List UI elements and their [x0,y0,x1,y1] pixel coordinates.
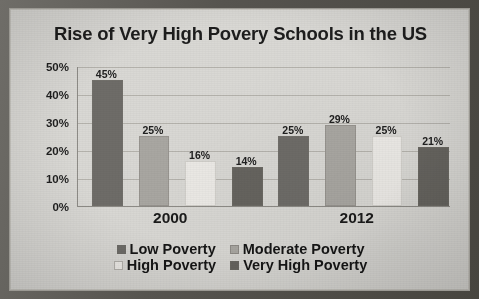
x-axis-category-label: 2012 [340,209,374,227]
y-axis-tick-label: 0% [52,201,69,213]
scanned-page: Rise of Very High Povery Schools in the … [0,0,479,299]
bar-value-label: 45% [96,68,117,80]
legend-label: High Poverty [127,257,216,273]
bar-value-label: 21% [422,135,443,147]
legend-item-low-poverty[interactable]: Low Poverty [117,241,216,257]
bar-value-label: 25% [376,124,397,136]
bar [278,136,309,206]
bar-value-label: 14% [236,155,257,167]
x-axis-category-label: 2000 [153,209,187,227]
y-axis-tick-label: 20% [46,145,69,157]
bar [372,136,403,206]
plot-area [77,67,450,207]
legend-row: High PovertyVery High Poverty [10,257,470,273]
bar [418,147,449,206]
chart-legend: Low PovertyModerate PovertyHigh PovertyV… [10,241,470,273]
legend-row: Low PovertyModerate Poverty [10,241,470,257]
bar [139,136,170,206]
bar [232,167,263,206]
x-axis: 20002012 [77,209,450,231]
legend-swatch-icon [230,245,239,254]
legend-item-high-poverty[interactable]: High Poverty [114,257,216,273]
chart-title: Rise of Very High Povery Schools in the … [10,23,470,45]
y-axis: 0%10%20%30%40%50% [30,67,74,207]
legend-item-moderate-poverty[interactable]: Moderate Poverty [230,241,365,257]
y-axis-tick-label: 40% [46,89,69,101]
legend-swatch-icon [230,261,239,270]
bar-value-label: 25% [282,124,303,136]
bar [325,125,356,206]
y-axis-tick-label: 30% [46,117,69,129]
bar-group-container [78,67,450,206]
bar [92,80,123,206]
legend-label: Moderate Poverty [243,241,365,257]
bar [185,161,216,206]
legend-label: Very High Poverty [243,257,367,273]
legend-label: Low Poverty [130,241,216,257]
bar-value-label: 16% [189,149,210,161]
legend-swatch-icon [117,245,126,254]
y-axis-tick-label: 50% [46,61,69,73]
plot-wrapper: 0%10%20%30%40%50% 45%25%16%14%25%29%25%2… [30,67,450,207]
bar-value-label: 29% [329,113,350,125]
chart-container: Rise of Very High Povery Schools in the … [9,8,470,291]
y-axis-tick-label: 10% [46,173,69,185]
bar-value-label: 25% [142,124,163,136]
legend-swatch-icon [114,261,123,270]
legend-item-very-high-poverty[interactable]: Very High Poverty [230,257,367,273]
